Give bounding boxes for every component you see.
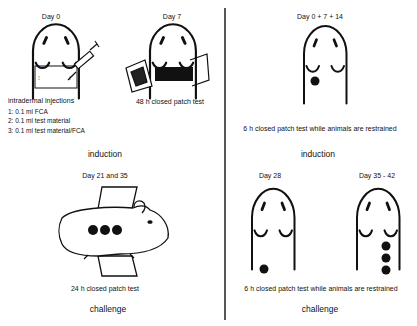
occlusive-patch xyxy=(155,67,193,81)
right-challenge-caption: 6 h closed patch test while animals are … xyxy=(244,285,397,292)
protocol-illustrations: ⁝ ⁝ xyxy=(0,0,417,326)
day35-label: Day 35 - 42 xyxy=(359,172,395,179)
induction-patch-site xyxy=(311,77,320,86)
day0-guinea-pig xyxy=(33,24,79,98)
day7-caption: 48 h closed patch test xyxy=(136,98,204,105)
right-induction-phase: induction xyxy=(301,150,335,159)
right-induction-day-label: Day 0 + 7 + 14 xyxy=(297,13,343,20)
injection-item: 2: 0.1 ml test material xyxy=(8,116,85,126)
right-induction-caption: 6 h closed patch test while animals are … xyxy=(243,125,396,132)
svg-text:⁝: ⁝ xyxy=(38,75,40,81)
day28-label: Day 28 xyxy=(259,172,281,179)
day35-guinea-pig xyxy=(357,189,400,270)
right-induction-guinea-pig xyxy=(304,26,347,104)
challenge-day-label: Day 21 and 35 xyxy=(82,172,128,179)
day0-label: Day 0 xyxy=(42,13,60,20)
day28-patch-site xyxy=(260,265,269,274)
challenge-patch-sites xyxy=(88,225,122,235)
right-challenge-phase: challenge xyxy=(302,305,338,314)
syringe-icon xyxy=(68,41,99,80)
injection-item: 1: 0.1 ml FCA xyxy=(8,107,85,117)
left-challenge-phase: challenge xyxy=(90,305,126,314)
left-induction-phase: induction xyxy=(88,150,122,159)
injection-list: intradermal injections 1: 0.1 ml FCA 2: … xyxy=(8,96,85,135)
day35-patch-sites xyxy=(382,242,391,275)
injection-item: 3: 0.1 ml test material/FCA xyxy=(8,126,85,136)
patch-flap-left xyxy=(126,60,152,92)
day28-guinea-pig xyxy=(252,189,295,270)
injection-caption: intradermal injections xyxy=(8,96,85,106)
challenge-caption: 24 h closed patch test xyxy=(71,285,139,292)
day7-label: Day 7 xyxy=(163,13,181,20)
day7-guinea-pig xyxy=(150,24,196,98)
